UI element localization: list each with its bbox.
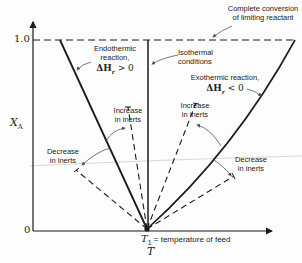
increase-inerts-right-label: Increase in inerts xyxy=(177,101,213,119)
dashed-decrease-inerts-left xyxy=(76,170,147,229)
isothermal-label: Isothermal conditions xyxy=(178,48,213,66)
dashed-increase-inerts-right xyxy=(147,103,196,229)
decrease-inerts-right-label: Decrease in inerts xyxy=(232,155,270,173)
y-tick-0: 0 xyxy=(24,224,30,235)
arc-increase-inerts-left xyxy=(106,128,125,141)
exothermic-curve xyxy=(147,40,295,229)
feed-temperature-label: T1 = temperature of feed xyxy=(141,233,231,248)
arc-decrease-inerts-right xyxy=(214,160,231,176)
dashed-increase-inerts-left xyxy=(128,107,147,229)
complete-conversion-label: Complete conversion of limiting reactant xyxy=(224,4,302,22)
feed-point xyxy=(144,226,149,231)
endothermic-label: Endothermic reaction, ΔHr > 0 xyxy=(88,44,142,78)
y-axis-label: XA xyxy=(10,116,23,131)
decrease-inerts-left-label: Decrease in inerts xyxy=(44,147,82,165)
diagram-canvas: 1.0 0 XA T T1 = temperature of feed Comp… xyxy=(0,0,302,263)
exothermic-label: Exothermic reaction, ΔHr < 0 xyxy=(180,73,270,98)
dashed-decrease-inerts-right xyxy=(147,176,234,229)
increase-inerts-left-label: Increase in inerts xyxy=(110,106,146,124)
y-tick-1: 1.0 xyxy=(14,33,30,44)
arc-increase-inerts-right xyxy=(197,125,221,146)
diagram-graphics xyxy=(0,0,302,263)
